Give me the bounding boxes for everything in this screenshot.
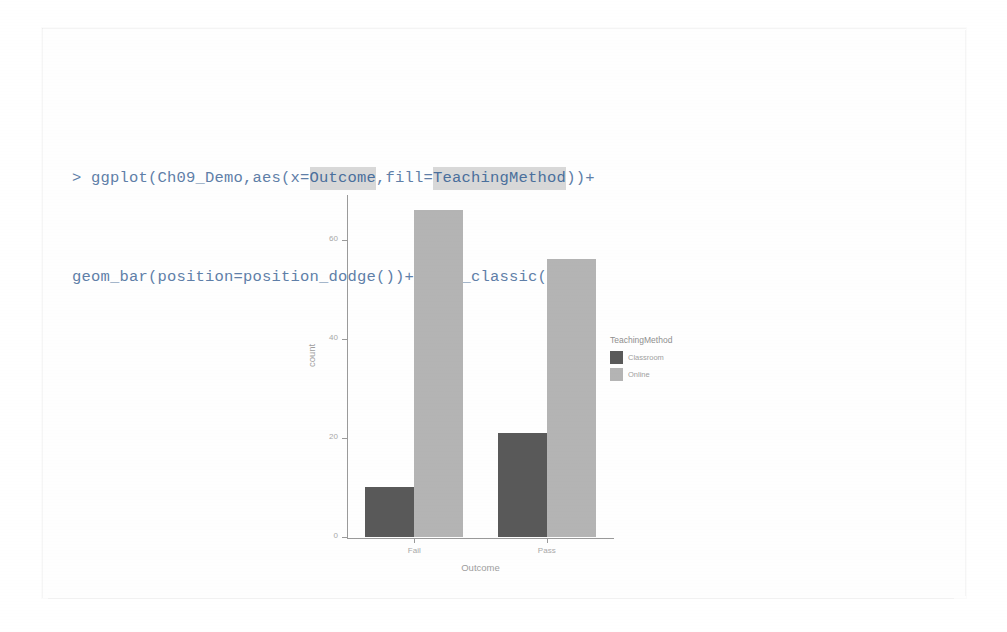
y-axis-tick-label: 0 — [334, 531, 338, 540]
y-axis-tick-label: 60 — [329, 234, 338, 243]
bar-fail-classroom — [365, 487, 414, 537]
chart-legend: TeachingMethod ClassroomOnline — [610, 335, 720, 385]
y-axis-tick-label: 20 — [329, 432, 338, 441]
page-edge-bottom — [48, 598, 954, 599]
legend-item-classroom: Classroom — [610, 351, 720, 364]
y-axis-tick-mark — [342, 240, 347, 241]
y-axis-tick: 60 — [342, 240, 347, 241]
y-axis-tick-mark — [342, 438, 347, 439]
code-line-1-pre: ggplot(Ch09_Demo,aes(x= — [91, 169, 310, 187]
y-axis-tick-label: 40 — [329, 333, 338, 342]
x-axis-tick-label: Pass — [538, 546, 556, 555]
legend-title: TeachingMethod — [610, 335, 720, 345]
page-edge-right — [965, 30, 966, 596]
legend-item-label: Classroom — [628, 353, 664, 362]
bar-pass-online — [547, 259, 596, 537]
bar-fail-online — [414, 210, 463, 537]
y-axis-tick: 20 — [342, 438, 347, 439]
bar-pass-classroom — [498, 433, 547, 537]
legend-key-swatch — [610, 351, 623, 364]
ggplot-bar-chart: 0204060 FailPass Outcome count TeachingM… — [300, 185, 720, 585]
legend-item-online: Online — [610, 368, 720, 381]
plot-panel — [348, 195, 613, 537]
y-axis-title: count — [306, 344, 317, 367]
x-axis-line — [347, 538, 614, 539]
page-edge-top — [42, 28, 966, 29]
scanned-page: > ggplot(Ch09_Demo,aes(x=Outcome,fill=Te… — [0, 0, 1007, 632]
legend-items: ClassroomOnline — [610, 351, 720, 381]
x-axis-tick-mark — [414, 538, 415, 543]
y-axis-tick-mark — [342, 339, 347, 340]
legend-key-swatch — [610, 368, 623, 381]
y-axis-tick: 0 — [342, 537, 347, 538]
x-axis-tick-label: Fail — [408, 546, 421, 555]
legend-item-label: Online — [628, 370, 650, 379]
page-edge-left — [42, 28, 43, 598]
console-prompt: > — [72, 169, 91, 187]
x-axis-title: Outcome — [347, 562, 614, 573]
y-axis-tick: 40 — [342, 339, 347, 340]
y-axis-tick-mark — [342, 537, 347, 538]
x-axis-tick-mark — [547, 538, 548, 543]
